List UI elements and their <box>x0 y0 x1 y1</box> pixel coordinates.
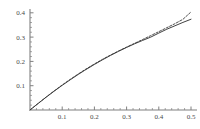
x-axis-tick-label: 0.2 <box>90 113 99 121</box>
y-axis-tick-label: 0.4 <box>16 9 25 17</box>
x-axis-tick-label: 0.3 <box>122 113 131 121</box>
chart-canvas: 0.10.20.30.40.50.10.20.30.4 <box>0 0 200 129</box>
y-axis-tick-label: 0.2 <box>16 58 25 66</box>
y-axis-tick-label: 0.3 <box>16 34 25 42</box>
x-axis-tick-label: 0.4 <box>154 113 163 121</box>
y-axis-tick-label: 0.1 <box>16 82 25 90</box>
series-solid-curve <box>30 19 191 110</box>
plot-figure: 0.10.20.30.40.50.10.20.30.4 <box>0 0 200 129</box>
x-axis-tick-label: 0.1 <box>58 113 67 121</box>
x-axis-tick-label: 0.5 <box>187 113 196 121</box>
series-dashed-curve <box>30 12 191 110</box>
